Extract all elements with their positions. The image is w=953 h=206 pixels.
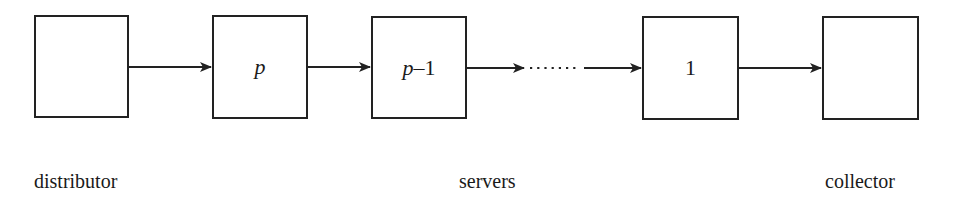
server-p-minus-1-var: p [403,55,414,80]
server-1-label: 1 [685,57,696,79]
servers-caption: servers [459,170,516,192]
server-p-minus-1-suffix: –1 [414,55,436,80]
distributor-box [34,15,129,118]
server-p-label: p [255,56,266,78]
server-p-box: p [212,15,308,119]
server-p-minus-1-box: p–1 [371,16,467,119]
collector-box [822,16,919,120]
server-p-var: p [255,54,266,79]
server-1-box: 1 [642,16,739,120]
distributor-caption: distributor [34,170,117,192]
collector-caption: collector [825,170,895,192]
server-p-minus-1-label: p–1 [403,57,436,79]
